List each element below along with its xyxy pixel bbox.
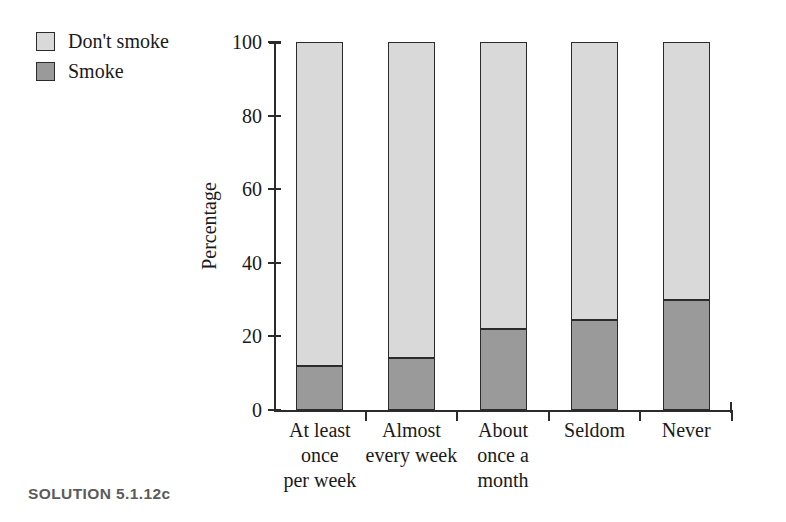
bar-segment-smoke xyxy=(480,329,527,410)
x-axis-category-label-line: Almost xyxy=(366,418,458,443)
x-axis-category-label: Seldom xyxy=(549,418,641,443)
x-axis-category-label-line: once xyxy=(274,443,366,468)
y-axis-tick xyxy=(268,409,281,411)
bar-segment-dont-smoke xyxy=(663,42,710,300)
y-axis-tick-label: 20 xyxy=(242,326,262,346)
x-axis-category-label-line: every week xyxy=(366,443,458,468)
x-axis-category-label: At leastonceper week xyxy=(274,418,366,493)
x-axis-category-label: Aboutonce amonth xyxy=(457,418,549,493)
bar-group xyxy=(663,42,710,410)
y-axis-tick-label: 100 xyxy=(232,32,262,52)
x-axis-category-label-line: per week xyxy=(274,468,366,493)
y-axis-tick xyxy=(268,115,281,117)
x-axis-category-label-line: At least xyxy=(274,418,366,443)
y-axis-line xyxy=(274,42,276,410)
y-axis-tick-label: 0 xyxy=(252,400,262,420)
bar-segment-dont-smoke xyxy=(388,42,435,358)
legend-label-dont-smoke: Don't smoke xyxy=(68,31,169,51)
x-axis-category-label: Never xyxy=(640,418,732,443)
stacked-bar-chart-figure: Don't smoke Smoke Percentage 02040608010… xyxy=(0,0,786,522)
x-axis-category-label-line: once a xyxy=(457,443,549,468)
x-axis-category-label-line: Seldom xyxy=(549,418,641,443)
y-axis-tick-label: 80 xyxy=(242,106,262,126)
legend-swatch-smoke xyxy=(36,62,55,81)
bar-segment-dont-smoke xyxy=(296,42,343,366)
bar-segment-dont-smoke xyxy=(480,42,527,329)
y-axis-title-text: Percentage xyxy=(199,182,219,270)
y-axis-tick-label: 40 xyxy=(242,253,262,273)
x-axis-category-label-line: About xyxy=(457,418,549,443)
x-axis-category-label: Almostevery week xyxy=(366,418,458,468)
y-axis-tick xyxy=(268,188,281,190)
y-axis-tick xyxy=(268,335,281,337)
bar-group xyxy=(296,42,343,410)
x-axis-category-label-line: Never xyxy=(640,418,732,443)
legend-label-smoke: Smoke xyxy=(68,61,124,81)
bar-segment-smoke xyxy=(663,300,710,410)
x-axis-line xyxy=(274,410,732,412)
x-axis-category-label-line: month xyxy=(457,468,549,493)
bar-segment-smoke xyxy=(571,320,618,410)
y-axis-tick xyxy=(268,41,281,43)
legend-swatch-dont-smoke xyxy=(36,32,55,51)
y-axis-tick xyxy=(268,262,281,264)
bar-group xyxy=(388,42,435,410)
bar-segment-smoke xyxy=(388,358,435,410)
plot-area: 020406080100 xyxy=(274,42,732,410)
y-axis-title: Percentage xyxy=(196,42,222,410)
bar-group xyxy=(571,42,618,410)
y-axis-tick-label: 60 xyxy=(242,179,262,199)
bar-segment-dont-smoke xyxy=(571,42,618,320)
bar-group xyxy=(480,42,527,410)
figure-caption: SOLUTION 5.1.12c xyxy=(28,485,171,503)
bar-segment-smoke xyxy=(296,366,343,410)
